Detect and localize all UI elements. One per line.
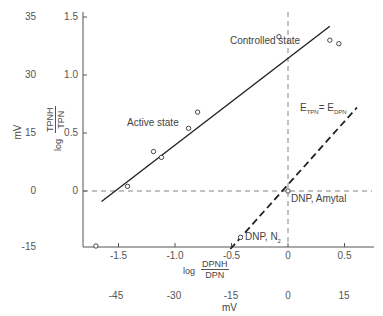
reference-lines	[83, 12, 372, 247]
x-axis-denominator: DPN	[201, 270, 229, 280]
x-mv-tick-label: 0	[273, 290, 303, 301]
x-mv-tick-label: 15	[329, 290, 359, 301]
annotation-dnp-amytal: DNP, Amytal	[291, 193, 346, 204]
x-tick-label: 0	[273, 250, 303, 261]
dpn-subscript: DPN	[334, 109, 347, 115]
equals-e: = E	[319, 102, 334, 113]
axes	[83, 12, 374, 247]
annotation-dnp-n2: DNP, N2	[245, 231, 281, 244]
y-mv-tick-label: 0	[12, 185, 36, 196]
regression-line	[102, 26, 330, 201]
y-axis-numerator: TPNH	[45, 107, 56, 134]
x-mv-tick-label: -45	[101, 290, 131, 301]
data-point	[94, 244, 98, 248]
y-tick-label: 0	[52, 185, 78, 196]
annotation-controlled-state: Controlled state	[230, 35, 300, 46]
equilibrium-line	[230, 107, 357, 249]
y-mv-tick-label: 30	[12, 69, 36, 80]
x-axis-numerator: DPNH	[201, 259, 229, 270]
data-points	[94, 35, 341, 249]
y-tick-label: 1.5	[52, 11, 78, 22]
y-axis-denominator: TPN	[56, 107, 66, 134]
x-axis-mv-label: mV	[222, 302, 237, 313]
fit-lines	[102, 26, 357, 249]
y-axis-log: log	[53, 139, 63, 151]
y-mv-tick-label: -15	[12, 241, 36, 252]
annotation-etpn-edpn: ETPN= EDPN	[300, 102, 347, 115]
x-mv-tick-label: -30	[159, 290, 189, 301]
x-axis-fraction: DPNH DPN	[201, 259, 229, 280]
x-axis-log: log	[183, 266, 195, 276]
x-tick-label: 0.5	[330, 250, 360, 261]
y-axis-fraction: TPNH TPN	[45, 107, 66, 134]
data-point	[186, 126, 190, 130]
x-mv-tick-label: -15	[216, 290, 246, 301]
data-point	[195, 110, 199, 114]
n2-subscript: 2	[278, 238, 281, 244]
data-point	[159, 155, 163, 159]
e-symbol: E	[300, 102, 307, 113]
y-tick-label: 1.0	[52, 69, 78, 80]
y-axis-mv-label: mV	[12, 120, 24, 144]
data-point	[286, 189, 290, 193]
dnp-n-text: DNP, N	[245, 231, 278, 242]
data-point	[328, 38, 332, 42]
annotation-active-state: Active state	[127, 117, 179, 128]
data-point	[238, 235, 242, 239]
tpn-subscript: TPN	[307, 109, 319, 115]
x-axis-title: log DPNH DPN	[183, 259, 263, 283]
data-point	[337, 41, 341, 45]
data-point	[125, 184, 129, 188]
y-mv-tick-label: 35	[12, 11, 36, 22]
data-point	[151, 149, 155, 153]
x-tick-label: -1.5	[104, 250, 134, 261]
y-axis-title: log TPNH TPN	[45, 91, 71, 151]
